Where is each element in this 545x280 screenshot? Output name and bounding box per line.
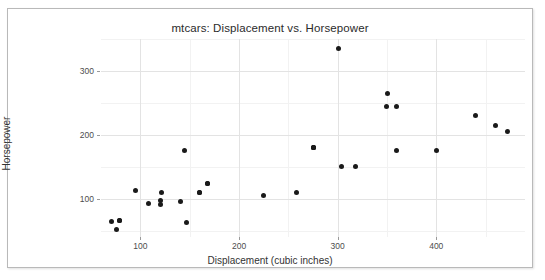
gridline-y-minor	[101, 103, 525, 104]
gridline-y-major	[101, 135, 525, 136]
scatter-point	[133, 188, 138, 193]
y-axis-tick-label: 200	[64, 130, 94, 140]
y-axis-tick-mark	[97, 71, 100, 72]
scatter-point	[159, 190, 164, 195]
gridline-x-major	[436, 39, 437, 237]
gridline-x-minor	[387, 39, 388, 237]
gridline-x-major	[140, 39, 141, 237]
y-axis-tick-mark	[97, 135, 100, 136]
scatter-point	[394, 148, 399, 153]
gridline-x-minor	[288, 39, 289, 237]
plot-panel	[101, 39, 525, 237]
scatter-point	[434, 148, 439, 153]
scatter-point	[473, 113, 478, 118]
figure-frame: mtcars: Displacement vs. Horsepower 1002…	[7, 8, 533, 268]
scatter-point	[339, 164, 344, 169]
y-axis-tick-mark	[97, 199, 100, 200]
scatter-point	[205, 181, 210, 186]
scatter-point	[311, 145, 316, 150]
scatter-point	[505, 129, 510, 134]
x-axis-tick-mark	[436, 237, 437, 240]
scatter-point	[493, 123, 498, 128]
scatter-point	[182, 148, 187, 153]
x-axis-tick-mark	[239, 237, 240, 240]
x-axis-tick-label: 400	[429, 241, 443, 251]
scatter-point	[384, 104, 389, 109]
y-axis-tick-label: 100	[64, 194, 94, 204]
x-axis-tick-label: 300	[331, 241, 345, 251]
x-axis-tick-mark	[140, 237, 141, 240]
scatter-point	[117, 218, 122, 223]
chart-title: mtcars: Displacement vs. Horsepower	[8, 22, 532, 34]
scatter-point	[178, 199, 183, 204]
scatter-point	[385, 91, 390, 96]
x-axis-tick-label: 100	[133, 241, 147, 251]
x-axis-title: Displacement (cubic inches)	[8, 255, 532, 266]
gridline-x-major	[338, 39, 339, 237]
scatter-point	[394, 104, 399, 109]
gridline-y-minor	[101, 231, 525, 232]
y-axis-title: Horsepower	[1, 117, 12, 171]
gridline-x-minor	[190, 39, 191, 237]
scatter-point	[353, 164, 358, 169]
y-axis-tick-label: 300	[64, 66, 94, 76]
gridline-x-major	[239, 39, 240, 237]
scatter-point	[294, 190, 299, 195]
scatter-point	[114, 227, 119, 232]
x-axis-tick-label: 200	[232, 241, 246, 251]
scatter-point	[336, 46, 341, 51]
gridline-y-minor	[101, 167, 525, 168]
gridline-y-major	[101, 71, 525, 72]
scatter-point	[197, 190, 202, 195]
scatter-point	[261, 193, 266, 198]
gridline-y-major	[101, 199, 525, 200]
scatter-point	[109, 219, 114, 224]
scatter-point	[146, 201, 151, 206]
gridline-y-minor	[101, 39, 525, 40]
gridline-x-minor	[486, 39, 487, 237]
scatter-point	[158, 202, 163, 207]
scatter-point	[184, 220, 189, 225]
x-axis-tick-mark	[338, 237, 339, 240]
